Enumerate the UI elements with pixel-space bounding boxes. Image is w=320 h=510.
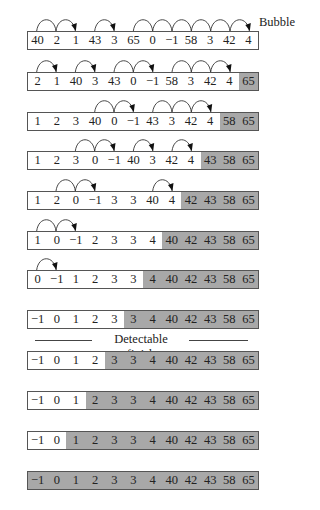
sorted-cell: 43: [201, 271, 220, 288]
sorted-cell: 58: [220, 192, 239, 209]
unsorted-cell: 2: [86, 232, 105, 249]
sorted-cell: 43: [201, 311, 220, 328]
swap-arc: [95, 101, 114, 112]
unsorted-cell: 42: [162, 152, 181, 169]
unsorted-cell: 43: [86, 32, 105, 49]
unsorted-cell: 2: [28, 73, 47, 90]
arrowhead-icon: [91, 183, 96, 191]
sorted-cell: 3: [124, 392, 143, 409]
sorted-cell: 58: [220, 232, 239, 249]
swap-arcs: [27, 176, 259, 192]
unsorted-cell: 3: [181, 73, 200, 90]
unsorted-cell: 2: [86, 352, 105, 369]
sorted-cell: 3: [105, 352, 124, 369]
unsorted-cell: 2: [47, 192, 66, 209]
sorted-cell: 43: [201, 232, 220, 249]
sorted-cell: 65: [239, 232, 258, 249]
unsorted-cell: 3: [105, 192, 124, 209]
unsorted-cell: 40: [143, 192, 162, 209]
unsorted-cell: 4: [220, 73, 239, 90]
pass-row: −10123344042435865: [27, 310, 259, 329]
pass-row: −10123344042435865: [27, 391, 259, 410]
arrowhead-icon: [245, 23, 251, 31]
unsorted-cell: −1: [105, 152, 124, 169]
sorted-cell: 58: [220, 472, 239, 489]
swap-arc: [56, 180, 75, 191]
unsorted-cell: 4: [181, 152, 200, 169]
unsorted-cell: 0: [47, 432, 66, 449]
swap-arc: [211, 20, 230, 31]
sorted-cell: 3: [105, 432, 124, 449]
sorted-cell: 43: [201, 432, 220, 449]
unsorted-cell: 40: [28, 32, 47, 49]
unsorted-cell: 3: [105, 32, 124, 49]
divider-line-left: [35, 340, 92, 341]
arrowhead-icon: [207, 104, 213, 112]
unsorted-cell: −1: [28, 392, 47, 409]
unsorted-cell: 3: [143, 152, 162, 169]
unsorted-cell: 4: [239, 32, 258, 49]
sorted-cell: 58: [220, 113, 239, 130]
unsorted-cell: 1: [28, 113, 47, 130]
sorted-cell: 65: [239, 311, 258, 328]
swap-arcs: [27, 97, 259, 113]
sorted-cell: 58: [220, 432, 239, 449]
sorted-cell: 40: [162, 232, 181, 249]
swap-arc: [153, 20, 172, 31]
arrowhead-icon: [71, 223, 77, 231]
unsorted-cell: 1: [66, 392, 85, 409]
sorted-cell: 42: [181, 192, 200, 209]
divider-line-right: [189, 340, 248, 341]
sorted-cell: 58: [220, 352, 239, 369]
sorted-cell: 42: [181, 271, 200, 288]
unsorted-cell: −1: [28, 311, 47, 328]
sorted-cell: 4: [143, 432, 162, 449]
sorted-cell: 65: [239, 152, 258, 169]
bubble-label: Bubble: [259, 15, 295, 30]
sorted-cell: 3: [105, 392, 124, 409]
unsorted-cell: 2: [86, 271, 105, 288]
arrowhead-icon: [52, 64, 58, 72]
unsorted-cell: 0: [86, 152, 105, 169]
sorted-cell: 43: [201, 192, 220, 209]
sorted-cell: 0: [47, 472, 66, 489]
unsorted-cell: −1: [86, 192, 105, 209]
swap-arc: [37, 20, 56, 31]
arrowhead-icon: [168, 183, 174, 191]
unsorted-cell: 3: [105, 311, 124, 328]
unsorted-cell: 0: [47, 311, 66, 328]
unsorted-cell: 3: [66, 113, 85, 130]
swap-arcs: [27, 57, 259, 73]
sorted-cell: 40: [162, 392, 181, 409]
sorted-cell: 43: [201, 472, 220, 489]
detectable-finish-divider: Detectable finish: [27, 333, 259, 347]
unsorted-cell: 3: [105, 232, 124, 249]
sorted-cell: 4: [143, 352, 162, 369]
swap-arc: [133, 20, 152, 31]
pass-row: −10123344042435865: [27, 431, 259, 450]
unsorted-cell: 1: [28, 192, 47, 209]
unsorted-cell: 42: [201, 73, 220, 90]
sorted-cell: 65: [239, 352, 258, 369]
unsorted-cell: 0: [143, 32, 162, 49]
unsorted-cell: 1: [28, 152, 47, 169]
unsorted-cell: 1: [66, 311, 85, 328]
sorted-cell: 3: [105, 472, 124, 489]
sorted-cell: 65: [239, 73, 258, 90]
sorted-cell: 42: [181, 392, 200, 409]
unsorted-cell: 0: [66, 192, 85, 209]
unsorted-cell: 2: [86, 311, 105, 328]
unsorted-cell: −1: [28, 432, 47, 449]
sorted-cell: 65: [239, 472, 258, 489]
arrowhead-icon: [71, 23, 77, 31]
sorted-cell: 40: [162, 311, 181, 328]
unsorted-cell: 4: [143, 232, 162, 249]
unsorted-cell: −1: [66, 232, 85, 249]
unsorted-cell: 58: [181, 32, 200, 49]
sorted-cell: 1: [66, 432, 85, 449]
unsorted-cell: 3: [124, 271, 143, 288]
pass-row: 120−13340442435865: [27, 191, 259, 210]
unsorted-cell: 3: [124, 192, 143, 209]
sorted-cell: 65: [239, 192, 258, 209]
sorted-cell: 4: [143, 311, 162, 328]
